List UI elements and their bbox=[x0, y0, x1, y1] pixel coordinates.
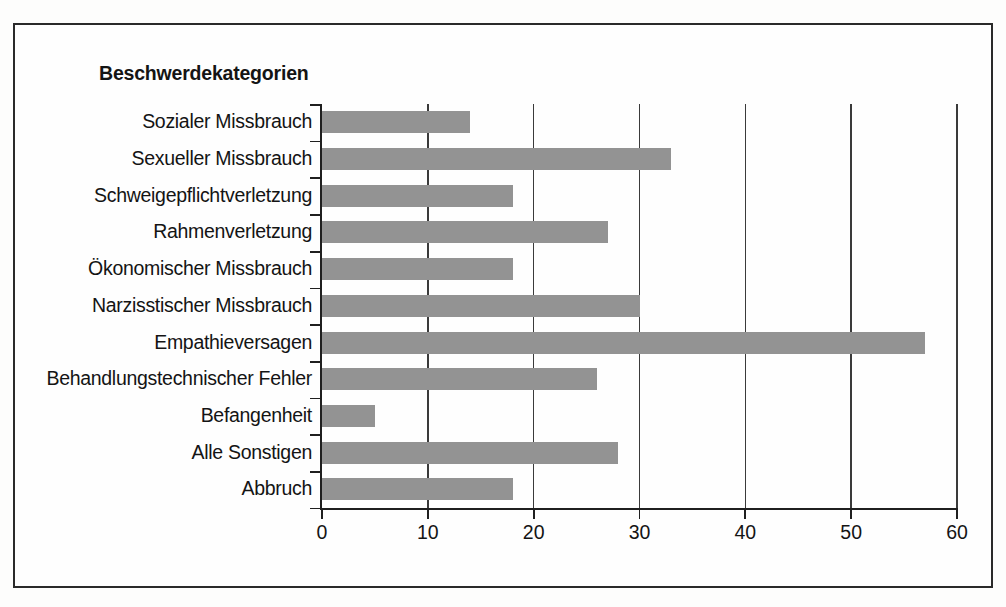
category-label: Alle Sonstigen bbox=[12, 443, 312, 463]
category-label: Sozialer Missbrauch bbox=[12, 112, 312, 132]
bar bbox=[322, 478, 513, 500]
y-axis-line bbox=[320, 104, 322, 510]
x-tick-label-10: 10 bbox=[417, 521, 439, 544]
x-tick-label-0: 0 bbox=[317, 521, 328, 544]
category-label-row: Empathieversagen bbox=[12, 333, 312, 357]
figure: Beschwerdekategorien Sozialer Missbrauch… bbox=[0, 0, 1006, 607]
category-label: Narzisstischer Missbrauch bbox=[12, 296, 312, 316]
category-label: Ökonomischer Missbrauch bbox=[12, 259, 312, 279]
gridline-40 bbox=[745, 104, 747, 508]
x-tick-50 bbox=[850, 508, 852, 519]
category-label-row: Abbruch bbox=[12, 479, 312, 503]
gridline-60 bbox=[956, 104, 958, 508]
category-label: Behandlungstechnischer Fehler bbox=[12, 369, 312, 389]
bar bbox=[322, 295, 640, 317]
bar bbox=[322, 111, 470, 133]
x-tick-label-50: 50 bbox=[840, 521, 862, 544]
bar bbox=[322, 185, 513, 207]
category-label: Empathieversagen bbox=[12, 333, 312, 353]
x-tick-0 bbox=[321, 508, 323, 519]
category-label-row: Befangenheit bbox=[12, 406, 312, 430]
category-label-row: Schweigepflichtverletzung bbox=[12, 186, 312, 210]
category-label-row: Ökonomischer Missbrauch bbox=[12, 259, 312, 283]
category-label: Befangenheit bbox=[12, 406, 312, 426]
bar bbox=[322, 332, 925, 354]
category-label: Rahmenverletzung bbox=[12, 222, 312, 242]
x-tick-label-40: 40 bbox=[734, 521, 756, 544]
category-label-row: Sozialer Missbrauch bbox=[12, 112, 312, 136]
x-tick-40 bbox=[744, 508, 746, 519]
x-tick-10 bbox=[427, 508, 429, 519]
x-tick-label-60: 60 bbox=[946, 521, 968, 544]
bar bbox=[322, 442, 618, 464]
chart-title: Beschwerdekategorien bbox=[99, 62, 309, 85]
x-tick-30 bbox=[639, 508, 641, 519]
x-tick-60 bbox=[956, 508, 958, 519]
x-tick-label-20: 20 bbox=[523, 521, 545, 544]
gridline-50 bbox=[850, 104, 852, 508]
bar bbox=[322, 148, 671, 170]
category-label: Abbruch bbox=[12, 479, 312, 499]
x-tick-label-30: 30 bbox=[629, 521, 651, 544]
category-label-row: Rahmenverletzung bbox=[12, 222, 312, 246]
category-label-row: Narzisstischer Missbrauch bbox=[12, 296, 312, 320]
category-label: Schweigepflichtverletzung bbox=[12, 186, 312, 206]
bar bbox=[322, 221, 608, 243]
category-label-row: Behandlungstechnischer Fehler bbox=[12, 369, 312, 393]
x-tick-20 bbox=[533, 508, 535, 519]
bar-chart-plot: Beschwerdekategorien Sozialer Missbrauch… bbox=[0, 0, 1006, 607]
bar bbox=[322, 368, 597, 390]
bar bbox=[322, 405, 375, 427]
bar bbox=[322, 258, 513, 280]
category-label-row: Sexueller Missbrauch bbox=[12, 149, 312, 173]
category-label-row: Alle Sonstigen bbox=[12, 443, 312, 467]
category-label: Sexueller Missbrauch bbox=[12, 149, 312, 169]
